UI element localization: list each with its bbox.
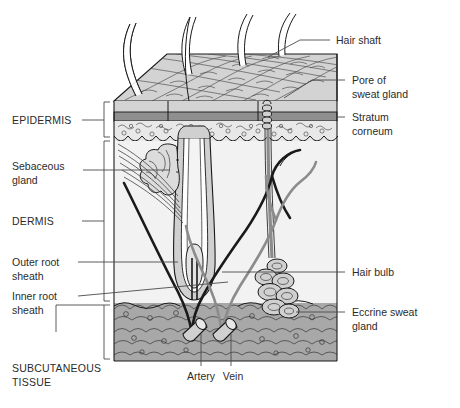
label-inner-root-line1: Inner root: [12, 290, 57, 302]
label-eccrine-line1: Eccrine sweat: [352, 306, 417, 318]
label-outer-root-line2: sheath: [12, 270, 44, 282]
label-vein: Vein: [223, 370, 244, 382]
label-sebaceous-line1: Sebaceous: [12, 160, 65, 172]
epidermis-bracket: [104, 102, 110, 137]
skin-cross-section-diagram: EPIDERMIS Sebaceous gland DERMIS Outer r…: [0, 0, 460, 408]
dermis-bracket: [104, 141, 110, 301]
epidermis-lower-layer: [114, 121, 338, 141]
label-stratum-line2: corneum: [352, 125, 393, 137]
hair-follicle: [173, 126, 215, 300]
label-outer-root-line1: Outer root: [12, 256, 59, 268]
leader-subcutaneous: [56, 305, 104, 332]
label-stratum-line1: Stratum: [352, 111, 389, 123]
stratum-corneum-layer: [114, 112, 337, 121]
skin-anatomy-figure: EPIDERMIS Sebaceous gland DERMIS Outer r…: [0, 0, 460, 408]
skin-surface-top: [114, 54, 352, 101]
label-pore-line1: Pore of: [352, 74, 386, 86]
label-eccrine-line2: gland: [352, 320, 378, 332]
follicle-neck: [178, 126, 210, 138]
label-sebaceous-line2: gland: [12, 174, 38, 186]
label-subcutaneous-line2: TISSUE: [12, 376, 51, 388]
epidermis-upper-band: [114, 101, 337, 112]
skin-block: [114, 54, 352, 361]
hair-shaft-4: [278, 13, 296, 56]
label-subcutaneous-line1: SUBCUTANEOUS: [12, 362, 101, 374]
label-inner-root-line2: sheath: [12, 304, 44, 316]
layer-brackets: [104, 102, 110, 359]
label-epidermis: EPIDERMIS: [12, 114, 72, 126]
label-pore-line2: sweat gland: [352, 88, 408, 100]
subcutaneous-bracket: [104, 305, 110, 359]
label-hair-bulb: Hair bulb: [352, 266, 394, 278]
label-hair-shaft: Hair shaft: [336, 34, 381, 46]
label-artery: Artery: [187, 370, 216, 382]
label-dermis: DERMIS: [12, 215, 54, 227]
